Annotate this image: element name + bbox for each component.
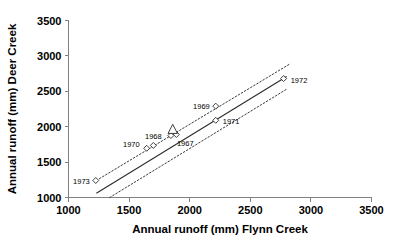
point-label-1968: 1968 [145, 132, 162, 141]
y-tick-label: 3500 [37, 15, 61, 27]
y-tick-label: 1000 [37, 192, 61, 204]
x-axis-title: Annual runoff (mm) Flynn Creek [132, 223, 308, 235]
point-label-1967: 1967 [177, 139, 194, 148]
point-label-1971: 1971 [223, 117, 240, 126]
scatter-plot: 100015002000250030003500 100015002000250… [0, 0, 397, 242]
x-tick-label: 3500 [359, 204, 383, 216]
point-label-1970: 1970 [123, 140, 140, 149]
y-tick-label: 3000 [37, 50, 61, 62]
x-tick-label: 1500 [117, 204, 141, 216]
point-label-1969: 1969 [193, 102, 210, 111]
y-axis-title: Annual runoff (mm) Deer Creek [6, 23, 18, 194]
y-tick-label: 1500 [37, 156, 61, 168]
x-tick-label: 2000 [177, 204, 201, 216]
point-label-1972: 1972 [291, 76, 308, 85]
y-tick-label: 2500 [37, 85, 61, 97]
y-tick-label: 2000 [37, 121, 61, 133]
chart-container: 100015002000250030003500 100015002000250… [0, 0, 397, 242]
x-tick-label: 3000 [299, 204, 323, 216]
x-tick-label: 2500 [238, 204, 262, 216]
x-tick-label: 1000 [56, 204, 80, 216]
point-label-1973: 1973 [73, 177, 90, 186]
